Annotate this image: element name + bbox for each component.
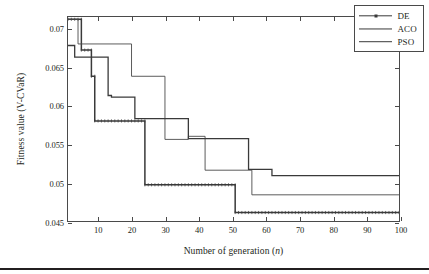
y-tick-mark — [395, 68, 399, 69]
y-tick-mark — [68, 145, 72, 146]
x-tick-mark — [132, 217, 133, 221]
x-tick-mark — [98, 217, 99, 221]
x-tick-label: 70 — [296, 225, 304, 235]
x-tick-mark — [401, 217, 402, 221]
chart-lines — [68, 17, 399, 221]
y-tick-mark — [395, 184, 399, 185]
x-tick-label: 80 — [330, 225, 338, 235]
y-axis-title: Fitness value (V-CVaR) — [12, 16, 30, 222]
x-tick-label: 100 — [395, 225, 407, 235]
y-tick-mark — [68, 68, 72, 69]
legend-swatch-de — [359, 11, 392, 21]
y-tick-mark — [68, 223, 72, 224]
legend-label-pso: PSO — [397, 37, 414, 47]
y-tick-label: 0.055 — [45, 140, 64, 150]
plot-area: 0.0450.050.0550.060.0650.071020304050607… — [67, 16, 400, 222]
x-tick-mark — [367, 217, 368, 221]
x-tick-mark — [233, 217, 234, 221]
x-tick-mark — [300, 17, 301, 21]
y-tick-mark — [68, 29, 72, 30]
x-tick-mark — [334, 217, 335, 221]
series-line-pso — [68, 45, 399, 175]
legend-label-aco: ACO — [397, 24, 417, 34]
x-tick-label: 40 — [195, 225, 203, 235]
legend-item-de: DE — [359, 9, 417, 22]
y-tick-mark — [68, 184, 72, 185]
x-tick-label: 30 — [161, 225, 169, 235]
x-tick-mark — [199, 17, 200, 21]
x-axis-title: Number of generation (n) — [67, 246, 400, 256]
legend-item-pso: PSO — [359, 35, 417, 48]
x-tick-label: 60 — [262, 225, 270, 235]
y-tick-label: 0.065 — [45, 63, 64, 73]
x-tick-label: 20 — [128, 225, 136, 235]
x-tick-mark — [199, 217, 200, 221]
y-tick-label: 0.06 — [50, 101, 64, 111]
x-tick-mark — [98, 17, 99, 21]
figure-container: Fitness value (V-CVaR) 0.0450.050.0550.0… — [0, 0, 429, 274]
y-tick-mark — [395, 106, 399, 107]
x-tick-mark — [132, 17, 133, 21]
x-tick-mark — [166, 17, 167, 21]
x-tick-mark — [233, 17, 234, 21]
x-tick-label: 90 — [363, 225, 371, 235]
y-tick-mark — [68, 106, 72, 107]
y-tick-mark — [395, 223, 399, 224]
x-tick-mark — [266, 217, 267, 221]
x-tick-label: 10 — [94, 225, 102, 235]
x-axis-title-suffix: ) — [280, 246, 283, 256]
y-tick-label: 0.05 — [50, 179, 64, 189]
x-tick-mark — [266, 17, 267, 21]
x-tick-label: 50 — [229, 225, 237, 235]
legend-swatch-pso — [359, 37, 392, 47]
y-tick-mark — [395, 145, 399, 146]
series-line-aco — [68, 19, 399, 195]
legend-swatch-aco — [359, 24, 392, 34]
x-tick-mark — [300, 217, 301, 221]
x-tick-mark — [334, 17, 335, 21]
y-axis-title-text: Fitness value (V-CVaR) — [16, 73, 26, 166]
x-tick-mark — [166, 217, 167, 221]
x-axis-title-prefix: Number of generation ( — [184, 246, 276, 256]
y-tick-label: 0.07 — [50, 24, 64, 34]
series-line-de — [68, 19, 399, 212]
legend: DE ACO PSO — [354, 5, 424, 52]
legend-label-de: DE — [397, 11, 409, 21]
legend-item-aco: ACO — [359, 22, 417, 35]
bottom-rule — [0, 268, 429, 270]
y-tick-label: 0.045 — [45, 218, 64, 228]
